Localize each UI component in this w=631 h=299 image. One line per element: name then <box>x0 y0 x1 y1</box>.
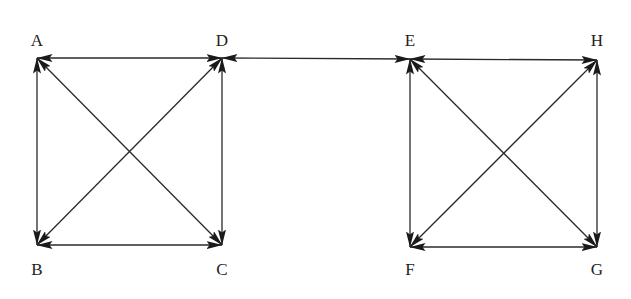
node-label-e: E <box>405 31 415 50</box>
edge-d-e <box>222 58 410 59</box>
edges-layer <box>37 58 597 247</box>
node-label-c: C <box>216 260 227 279</box>
edge-e-h <box>410 59 597 60</box>
labels-layer: ADBCEHFG <box>31 31 603 279</box>
node-label-g: G <box>591 260 603 279</box>
graph-canvas: ADBCEHFG <box>0 0 631 299</box>
node-label-d: D <box>216 31 228 50</box>
node-label-h: H <box>591 31 603 50</box>
node-label-a: A <box>31 31 44 50</box>
node-label-b: B <box>31 260 42 279</box>
node-label-f: F <box>405 260 414 279</box>
